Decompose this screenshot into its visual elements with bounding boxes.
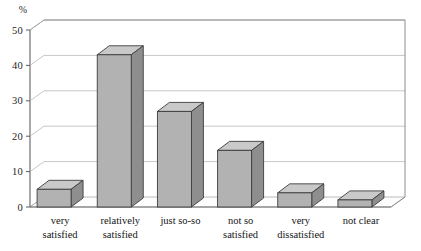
bar-front-face — [97, 55, 131, 207]
category-label-line1: relatively — [100, 215, 140, 226]
bar-front-face — [338, 200, 372, 207]
y-tick-depth-connector — [30, 162, 44, 172]
y-tick-label: 0 — [17, 202, 23, 213]
bar-chart-figure: 50403020100 % verysatisfiedrelativelysat… — [0, 0, 421, 251]
bar-front-face — [157, 111, 191, 207]
category-label-line2: satisfied — [223, 229, 259, 240]
bar-2 — [97, 46, 143, 207]
y-tick-depth-connector — [30, 20, 44, 30]
y-tick-label: 20 — [12, 131, 23, 142]
y-tick-label: 50 — [12, 25, 23, 36]
y-tick-label: 40 — [12, 60, 23, 71]
bar-side-face — [252, 141, 264, 207]
category-label-line2: satisfied — [103, 229, 139, 240]
category-label-line2: dissatisfied — [277, 229, 325, 240]
category-label-line1: very — [291, 215, 310, 226]
y-tick-group: 50403020100 — [12, 20, 44, 213]
y-tick-label: 30 — [12, 95, 23, 106]
y-tick-depth-connector — [30, 126, 44, 136]
category-label-line1: just so-so — [159, 215, 200, 226]
category-label-line2: satisfied — [43, 229, 79, 240]
bar-4 — [218, 141, 264, 207]
bar-1 — [37, 180, 83, 207]
bar-side-face — [131, 46, 143, 207]
category-label-line1: not clear — [343, 215, 380, 226]
bar-front-face — [37, 189, 71, 207]
y-tick-label: 10 — [12, 166, 23, 177]
y-tick-depth-connector — [30, 55, 44, 65]
bar-5 — [278, 184, 324, 207]
bar-3 — [157, 102, 203, 207]
bar-front-face — [278, 193, 312, 207]
category-label-group: verysatisfiedrelativelysatisfiedjust so-… — [43, 215, 380, 240]
bar-front-face — [218, 150, 252, 207]
chart-svg: 50403020100 % verysatisfiedrelativelysat… — [0, 0, 421, 251]
category-label-line1: not so — [228, 215, 253, 226]
bar-side-face — [191, 102, 203, 207]
category-label-line1: very — [51, 215, 70, 226]
y-tick-depth-connector — [30, 91, 44, 101]
y-axis-unit-label: % — [19, 4, 27, 15]
